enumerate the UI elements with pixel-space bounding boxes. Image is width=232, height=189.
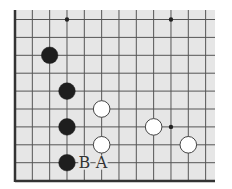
move-label-a: A (95, 153, 108, 172)
white-stone[interactable] (180, 137, 197, 154)
go-board: BA (0, 0, 232, 189)
move-label-b: B (78, 153, 90, 172)
star-point-icon (169, 125, 173, 129)
white-stone[interactable] (93, 137, 110, 154)
star-point-icon (169, 17, 173, 21)
white-stone[interactable] (93, 101, 110, 118)
white-stone[interactable] (145, 119, 162, 136)
black-stone[interactable] (59, 154, 76, 171)
black-stone[interactable] (41, 47, 58, 64)
board-background (15, 10, 215, 181)
black-stone[interactable] (59, 119, 76, 136)
star-point-icon (65, 17, 69, 21)
black-stone[interactable] (59, 83, 76, 100)
